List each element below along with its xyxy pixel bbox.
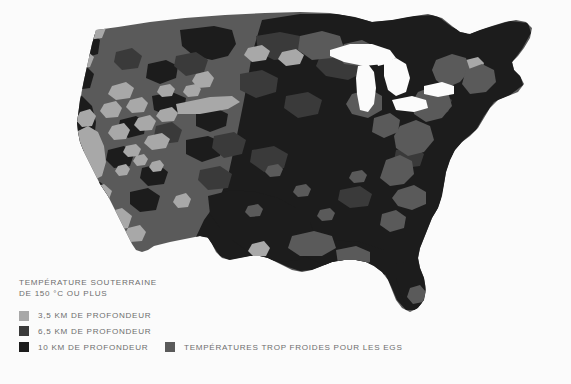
legend-swatch-3-5km [19,311,29,321]
legend-swatch-6-5km [19,326,29,336]
legend-item-3-5km: 3,5 KM DE PROFONDEUR [19,309,449,323]
legend-heading-line1: TEMPÉRATURE SOUTERRAINE [19,277,449,288]
legend-swatch-10km [19,342,29,352]
geothermal-map-page: TEMPÉRATURE SOUTERRAINE DE 150 °C OU PLU… [0,0,571,384]
legend-item-too-cold: TEMPÉRATURES TROP FROIDES POUR LES EGS [165,340,403,354]
legend-items: 3,5 KM DE PROFONDEUR 6,5 KM DE PROFONDEU… [19,309,449,354]
legend-label-6-5km: 6,5 KM DE PROFONDEUR [38,327,151,336]
legend-label-too-cold: TEMPÉRATURES TROP FROIDES POUR LES EGS [184,343,403,352]
legend-heading-line2: DE 150 °C OU PLUS [19,288,449,299]
legend-swatch-too-cold [165,342,175,352]
legend-label-3-5km: 3,5 KM DE PROFONDEUR [38,311,151,320]
map-legend: TEMPÉRATURE SOUTERRAINE DE 150 °C OU PLU… [19,277,449,356]
legend-item-6-5km: 6,5 KM DE PROFONDEUR [19,325,449,339]
legend-label-10km: 10 KM DE PROFONDEUR [38,343,148,352]
